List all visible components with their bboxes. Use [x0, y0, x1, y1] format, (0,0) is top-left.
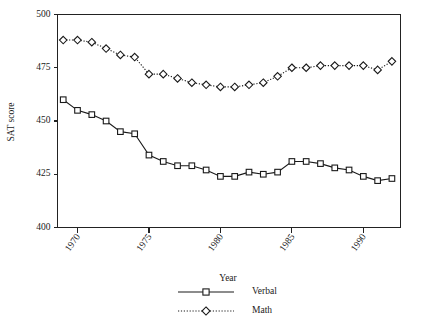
data-point-marker [88, 38, 95, 45]
y-tick-label: 500 [36, 9, 51, 19]
y-tick-label: 425 [36, 168, 51, 178]
x-tick-label: 1975 [135, 232, 154, 254]
legend-item-verbal[interactable]: Verbal [178, 286, 277, 296]
data-point-marker [160, 70, 167, 77]
data-point-marker [360, 62, 367, 69]
data-point-marker [103, 118, 109, 124]
data-point-marker [59, 36, 66, 43]
data-point-marker [89, 112, 95, 118]
legend-marker-diamond [202, 307, 210, 315]
data-point-marker [375, 178, 381, 184]
data-point-marker [317, 62, 324, 69]
series-verbal [60, 97, 394, 184]
data-point-marker [217, 83, 224, 90]
data-point-marker [261, 171, 267, 177]
data-point-marker [132, 131, 138, 137]
x-tick-label: 1980 [206, 232, 225, 254]
data-point-marker [160, 159, 166, 165]
series-line-verbal [63, 100, 392, 181]
data-point-marker [274, 73, 281, 80]
sat-score-line-chart: 400425450475500 19701975198019851990 SAT… [0, 0, 422, 323]
x-tick-label: 1990 [349, 232, 368, 254]
data-point-marker [374, 66, 381, 73]
data-point-marker [302, 64, 309, 71]
data-point-marker [346, 167, 352, 173]
chart-legend: VerbalMath [178, 286, 277, 315]
data-point-marker [175, 163, 181, 169]
legend-label: Verbal [252, 286, 277, 296]
data-point-marker [189, 163, 195, 169]
x-axis: 19701975198019851990 [63, 228, 368, 254]
data-point-marker [389, 176, 395, 182]
data-point-marker [102, 45, 109, 52]
legend-label: Math [252, 305, 272, 315]
data-point-marker [289, 159, 295, 165]
data-point-marker [232, 174, 238, 180]
data-point-marker [74, 36, 81, 43]
series-math [59, 36, 395, 90]
x-tick-label: 1970 [63, 232, 82, 254]
data-point-marker [246, 169, 252, 175]
data-point-marker [218, 174, 224, 180]
data-point-marker [131, 53, 138, 60]
data-point-marker [188, 79, 195, 86]
data-point-marker [388, 58, 395, 65]
data-point-marker [288, 64, 295, 71]
data-point-marker [174, 75, 181, 82]
y-tick-label: 450 [36, 115, 51, 125]
y-axis: 400425450475500 [36, 9, 57, 232]
data-point-marker [231, 83, 238, 90]
data-point-marker [345, 62, 352, 69]
data-point-marker [118, 129, 124, 135]
data-point-marker [146, 152, 152, 158]
data-point-marker [275, 169, 281, 175]
data-point-marker [245, 81, 252, 88]
data-point-marker [361, 174, 367, 180]
x-tick-label: 1985 [277, 232, 296, 254]
data-point-marker [332, 165, 338, 171]
data-point-marker [331, 62, 338, 69]
data-point-marker [303, 159, 309, 165]
y-tick-label: 475 [36, 62, 51, 72]
x-axis-title: Year [219, 273, 237, 283]
legend-marker-square [203, 289, 209, 295]
data-point-marker [202, 81, 209, 88]
data-point-marker [203, 167, 209, 173]
series-line-math [63, 40, 392, 87]
data-point-marker [318, 161, 324, 167]
data-point-marker [75, 108, 81, 114]
data-point-marker [260, 79, 267, 86]
data-point-marker [60, 97, 66, 103]
data-point-marker [117, 51, 124, 58]
legend-item-math[interactable]: Math [178, 305, 272, 315]
data-series-group [59, 36, 395, 183]
y-tick-label: 400 [36, 222, 51, 232]
chart-canvas: 400425450475500 19701975198019851990 SAT… [0, 0, 422, 323]
y-axis-title: SAT score [6, 102, 16, 141]
